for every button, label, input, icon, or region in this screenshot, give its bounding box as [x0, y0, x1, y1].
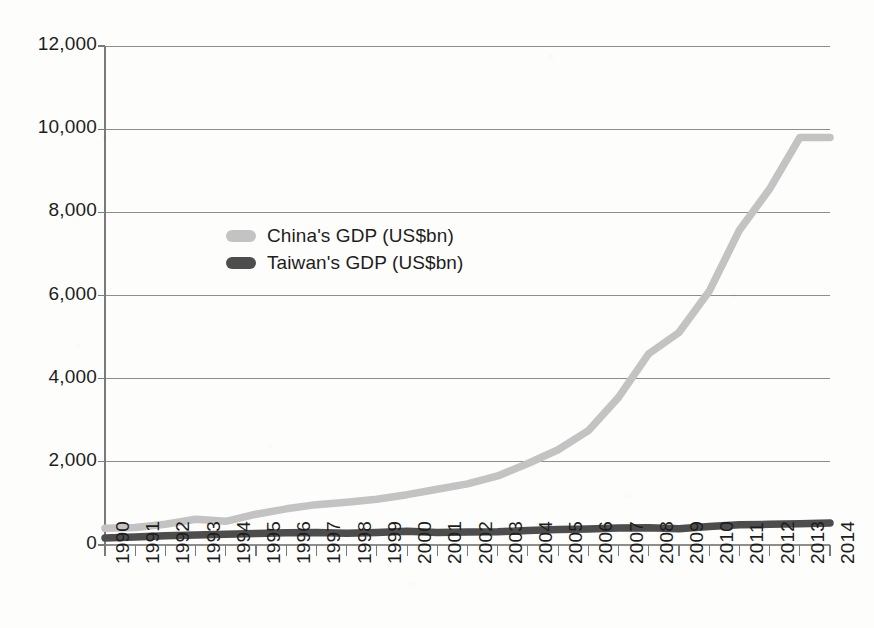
x-axis-tick-label: 1991 — [142, 521, 164, 564]
x-axis-tick-label: 2005 — [565, 521, 587, 564]
x-axis-tick-label: 2011 — [746, 522, 768, 564]
x-axis-tick-label: 2006 — [595, 521, 617, 564]
legend-label-taiwan: Taiwan's GDP (US$bn) — [267, 252, 463, 274]
x-axis: 1990199119921993199419951996199719981999… — [0, 0, 874, 628]
legend-item-china: China's GDP (US$bn) — [226, 222, 463, 249]
x-axis-tick-label: 2003 — [505, 521, 527, 564]
x-axis-tick-label: 2014 — [837, 521, 859, 564]
x-axis-tick-label: 2010 — [716, 521, 738, 564]
legend-swatch-taiwan-icon — [226, 257, 256, 269]
x-axis-tick-label: 1990 — [112, 521, 134, 564]
x-axis-tick-label: 1996 — [293, 521, 315, 564]
x-axis-tick-label: 2008 — [656, 521, 678, 564]
legend-item-taiwan: Taiwan's GDP (US$bn) — [226, 249, 463, 276]
x-axis-tick-label: 1995 — [263, 521, 285, 564]
gdp-comparison-chart: 12,00010,0008,0006,0004,0002,0000 199019… — [0, 0, 874, 628]
chart-legend: China's GDP (US$bn) Taiwan's GDP (US$bn) — [226, 222, 463, 276]
x-axis-tick-label: 2001 — [444, 521, 466, 564]
x-axis-tick-label: 1999 — [384, 521, 406, 564]
x-axis-tick-label: 2009 — [686, 521, 708, 564]
x-axis-tick-label: 1997 — [323, 521, 345, 564]
x-axis-tick-label: 1993 — [203, 521, 225, 564]
x-axis-tick-label: 2000 — [414, 521, 436, 564]
x-axis-tick-label: 1998 — [354, 521, 376, 564]
x-axis-tick-label: 2013 — [807, 521, 829, 564]
x-axis-tick-label: 1992 — [172, 521, 194, 564]
legend-label-china: China's GDP (US$bn) — [267, 225, 454, 247]
legend-swatch-china-icon — [226, 230, 256, 242]
x-axis-tick-label: 2004 — [535, 521, 557, 564]
x-axis-tick-label: 2002 — [475, 521, 497, 564]
x-axis-tick-label: 2007 — [626, 521, 648, 564]
x-axis-tick-label: 1994 — [233, 521, 255, 564]
x-axis-tick-label: 2012 — [777, 521, 799, 564]
